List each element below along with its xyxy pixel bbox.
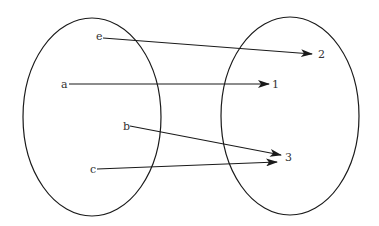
domain-element-c: c (90, 163, 96, 176)
domain-element-e: e (96, 30, 103, 43)
arrow-e-to-2 (103, 38, 312, 54)
mapping-arrows (69, 38, 312, 169)
codomain-set-ellipse (221, 17, 359, 215)
mapping-diagram: eabc213 (0, 0, 379, 226)
arrow-c-to-3 (97, 162, 277, 169)
codomain-element-1: 1 (272, 78, 279, 91)
codomain-element-2: 2 (318, 48, 325, 61)
domain-element-a: a (61, 78, 68, 91)
domain-set-ellipse (23, 18, 161, 216)
arrow-b-to-3 (130, 126, 281, 155)
domain-element-b: b (123, 120, 130, 133)
codomain-element-3: 3 (285, 151, 292, 164)
